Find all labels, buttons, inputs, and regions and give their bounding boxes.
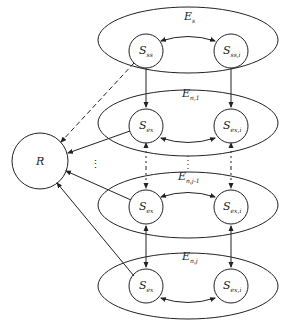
svg-text:En,1: En,1 xyxy=(181,87,200,101)
svg-text:Sss,i: Sss,i xyxy=(223,44,241,58)
svg-text:Sex,i: Sex,i xyxy=(223,200,241,214)
ellipse-group-en1: En,1 Sex Sex,i xyxy=(98,87,278,156)
ellipse-group-enj-1: En,j-1 Sex Sex,i xyxy=(98,170,278,238)
svg-text:Sss: Sss xyxy=(139,44,153,58)
ellipse-group-es: Es Sss Sss,i xyxy=(98,7,278,73)
svg-text:Sex,i: Sex,i xyxy=(223,279,241,293)
ellipse-group-enj: En,j Sex Sex,i xyxy=(98,250,278,319)
svg-text:En,j: En,j xyxy=(181,250,198,265)
svg-text:Sex: Sex xyxy=(139,279,154,293)
diagram-canvas: R Es Sss Sss,i En,1 Sex Sex,i En,j-1 Sex… xyxy=(0,0,282,323)
ellipsis-marker: ⋮ xyxy=(90,158,101,171)
hub-label: R xyxy=(35,155,44,168)
svg-text:Sex: Sex xyxy=(139,119,154,133)
svg-text:Sex: Sex xyxy=(139,200,154,214)
hub-node-r: R xyxy=(12,133,68,189)
svg-text:Sex,i: Sex,i xyxy=(223,119,241,133)
group-label: Es xyxy=(183,10,195,24)
